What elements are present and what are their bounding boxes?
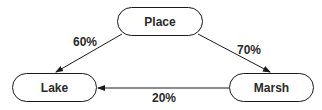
node-place: Place (117, 7, 203, 36)
node-marsh: Marsh (229, 73, 314, 102)
node-marsh-label: Marsh (254, 81, 289, 95)
edge-label-place-lake: 60% (73, 35, 97, 49)
edge-label-place-marsh: 70% (237, 43, 261, 57)
edge-label-marsh-lake: 20% (152, 91, 176, 105)
node-place-label: Place (144, 15, 175, 29)
node-lake: Lake (12, 73, 97, 102)
node-lake-label: Lake (41, 81, 68, 95)
